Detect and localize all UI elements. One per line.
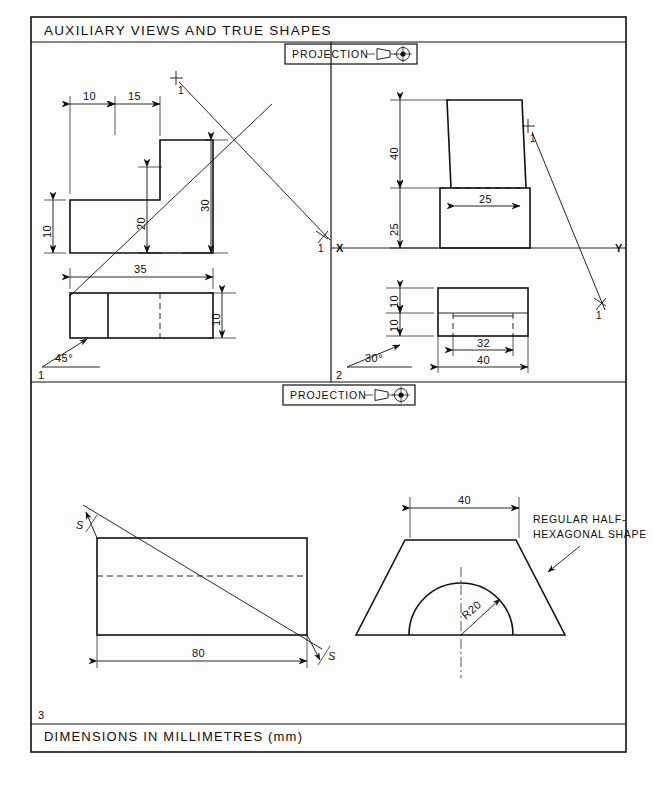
panel-2: X Y 40 25 25 (331, 100, 626, 381)
panel2-aux-axis-line (532, 132, 605, 310)
sheet-title: AUXILIARY VIEWS AND TRUE SHAPES (44, 23, 332, 38)
panel3-right-view: R20 40 REGULAR HALF- HEXAGONAL SHAPE (356, 494, 647, 678)
first-angle-projection-symbol-mid (365, 387, 410, 404)
ground-line-label-x: X (336, 242, 344, 254)
dim-text-10v: 10 (41, 225, 53, 238)
note-line-2: HEXAGONAL SHAPE (533, 528, 647, 540)
projection-label-top: PROJECTION (292, 48, 369, 60)
angle-label-30: 30° (365, 352, 383, 364)
panel2-axis-marker-y1: 1 (594, 298, 606, 321)
note-leader (548, 546, 580, 572)
ground-line-label-y: Y (615, 242, 623, 254)
panel1-front-view (70, 140, 213, 253)
panel1-aux-axis-line (179, 82, 330, 240)
dim-text-plan-10: 10 (210, 313, 222, 326)
dim-text-30: 30 (199, 199, 211, 212)
technical-drawing-canvas: AUXILIARY VIEWS AND TRUE SHAPES DIMENSIO… (0, 0, 653, 799)
projection-box-mid: PROJECTION (283, 385, 415, 405)
panel2-dim-32: 32 (453, 336, 513, 356)
panel2-problem-number: 2 (336, 369, 342, 381)
panel-3: S S 80 R20 40 REGU (38, 494, 647, 721)
dim-text-10: 10 (83, 90, 96, 102)
panel2-dim-25-height: 25 (388, 188, 438, 248)
panel3-left-view: S S 80 (76, 505, 336, 668)
section-label-s-bottom: S (328, 650, 336, 662)
dim-text-35: 35 (134, 263, 147, 275)
panel1-axis-marker-x1: 1 (170, 71, 184, 96)
panel2-dim-25-width: 25 (455, 193, 520, 206)
panel1-dim-30-height: 30 (182, 140, 228, 253)
axis-label-x1-sub: 1 (530, 133, 536, 144)
panel1-front-profile (70, 140, 213, 253)
panel1-dim-20-height: 20 (135, 167, 162, 253)
panel1-axis-marker-y1: 1 (316, 231, 328, 254)
axis-label-y1-sub: 1 (596, 310, 602, 321)
section-tick-top (86, 515, 97, 532)
drawing-sheet: AUXILIARY VIEWS AND TRUE SHAPES DIMENSIO… (0, 0, 653, 799)
panel2-dim-40: 40 (388, 100, 450, 188)
panel3-rect-outline (97, 538, 307, 635)
dim-text-25w: 25 (479, 193, 492, 205)
sheet-footer: DIMENSIONS IN MILLIMETRES (mm) (44, 729, 303, 744)
dim-text-32: 32 (477, 337, 490, 349)
first-angle-projection-symbol-top (367, 46, 412, 63)
panel1-problem-number: 1 (38, 369, 44, 381)
dim-text-40: 40 (388, 147, 400, 160)
axis-label-x1-sub: 1 (178, 85, 184, 96)
dim-text-plan-10-front: 10 (388, 319, 400, 332)
panel1-plan-outline (70, 293, 213, 338)
section-arrow-top (86, 512, 97, 538)
section-arrow-bottom (307, 635, 320, 660)
dim-text-25h: 25 (388, 223, 400, 236)
panel2-plan-view (438, 288, 528, 336)
note-line-1: REGULAR HALF- (533, 513, 626, 525)
panel1-plan-view (70, 293, 213, 338)
dim-text-80: 80 (192, 647, 205, 659)
projection-label-mid: PROJECTION (290, 389, 367, 401)
axis-label-y1-sub: 1 (318, 243, 324, 254)
dim-text-15: 15 (128, 90, 141, 102)
panel2-plan-outline (438, 288, 528, 336)
dim-text-plan-40: 40 (477, 354, 490, 366)
panel2-front-view (440, 100, 530, 248)
dim-text-40-top: 40 (458, 494, 471, 506)
panel2-angle-30: 30° (347, 345, 412, 367)
panel3-problem-number: 3 (38, 709, 44, 721)
panel2-upright-taper (447, 100, 526, 188)
panel1-angle-45: 45° (42, 339, 100, 367)
projection-box-top: PROJECTION (285, 44, 417, 64)
panel1-dim-10-width: 10 (70, 90, 115, 194)
panel3-trapezoid-outline (356, 540, 565, 635)
panel1-dim-10-height: 10 (41, 200, 66, 253)
panel2-dim-plan-10-rear: 10 (386, 288, 434, 313)
dim-text-plan-10-rear: 10 (388, 295, 400, 308)
panel2-dim-plan-10-front: 10 (386, 313, 434, 336)
panel3-section-line (83, 505, 322, 649)
angle-label-45: 45° (55, 352, 73, 364)
section-label-s-top: S (76, 519, 84, 531)
panel-1: 10 15 10 20 30 (38, 71, 330, 381)
